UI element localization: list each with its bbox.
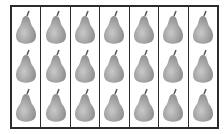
pear-icon xyxy=(190,10,216,46)
pear-icon xyxy=(160,10,186,46)
pear-icon xyxy=(43,10,69,46)
pear-icon xyxy=(13,10,39,46)
pear-icon xyxy=(101,49,127,85)
pear-column xyxy=(100,7,129,127)
pear-icon xyxy=(131,10,157,46)
pear-column xyxy=(159,7,188,127)
pear-column xyxy=(189,7,217,127)
pear-column xyxy=(12,7,41,127)
pear-icon xyxy=(72,88,98,124)
pear-icon xyxy=(43,88,69,124)
pear-icon xyxy=(13,88,39,124)
pear-column xyxy=(71,7,100,127)
pear-column xyxy=(41,7,70,127)
pear-icon xyxy=(190,88,216,124)
pear-column xyxy=(130,7,159,127)
pear-array-frame xyxy=(10,5,219,129)
pear-icon xyxy=(101,88,127,124)
pear-icon xyxy=(72,10,98,46)
pear-icon xyxy=(160,49,186,85)
pear-icon xyxy=(160,88,186,124)
pear-icon xyxy=(190,49,216,85)
pear-icon xyxy=(13,49,39,85)
pear-icon xyxy=(131,88,157,124)
pear-icon xyxy=(43,49,69,85)
pear-icon xyxy=(131,49,157,85)
pear-icon xyxy=(101,10,127,46)
pear-icon xyxy=(72,49,98,85)
